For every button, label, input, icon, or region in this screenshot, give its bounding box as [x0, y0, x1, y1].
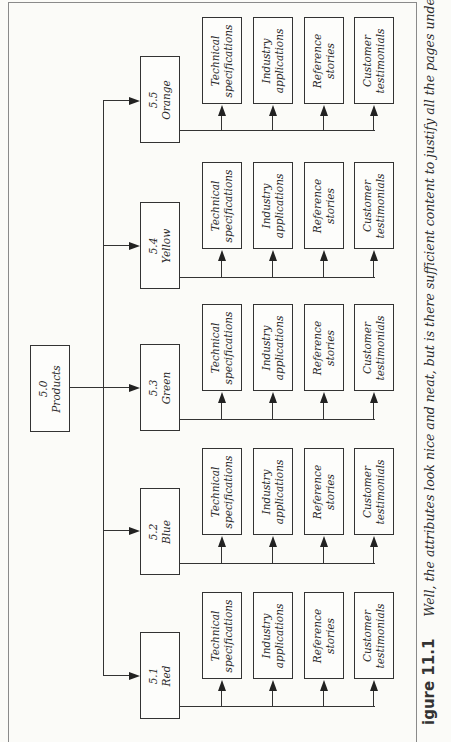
product-label: Yellow: [160, 228, 173, 262]
arrow-right-icon: [129, 97, 140, 105]
product-box-yellow: 5.4Yellow: [140, 202, 180, 289]
child-page-line2: testimonials: [374, 459, 387, 524]
arrow-up-icon: [320, 680, 328, 691]
arrow-up-icon: [370, 392, 378, 403]
child-connector-line: [180, 419, 375, 420]
child-page-text: Customertestimonials: [361, 173, 387, 238]
child-page-line1: Customer: [361, 603, 374, 668]
arrow-up-icon: [269, 680, 277, 691]
child-page-text: Referencestories: [311, 33, 337, 87]
child-page-line1: Technical: [209, 599, 222, 672]
product-box-text: 5.3Green: [147, 371, 173, 404]
root-number: 5.0: [37, 365, 50, 412]
child-page-text: Industryapplications: [260, 603, 286, 668]
child-page-line2: stories: [324, 608, 337, 662]
child-page-line2: specifications: [222, 599, 235, 672]
product-box-text: 5.4Yellow: [147, 228, 173, 262]
child-page-line1: Customer: [361, 28, 374, 93]
arrow-up-icon: [269, 392, 277, 403]
child-page-box: Technicalspecifications: [202, 304, 242, 391]
figure-caption: igure 11.1 Well, the attributes look nic…: [420, 0, 438, 725]
child-page-box: Customertestimonials: [354, 17, 394, 104]
child-page-text: Referencestories: [311, 608, 337, 662]
product-box-green: 5.3Green: [140, 344, 180, 431]
child-page-line1: Technical: [209, 24, 222, 97]
product-number: 5.2: [147, 519, 160, 543]
arrow-up-icon: [370, 105, 378, 116]
trunk-branch-line: [103, 387, 131, 388]
product-label: Orange: [160, 80, 173, 120]
child-page-box: Technicalspecifications: [202, 17, 242, 104]
child-page-line2: specifications: [222, 455, 235, 528]
product-box-orange: 5.5Orange: [140, 56, 180, 143]
child-page-line1: Technical: [209, 169, 222, 242]
arrow-up-icon: [218, 680, 226, 691]
child-page-text: Customertestimonials: [361, 459, 387, 524]
child-page-line1: Industry: [260, 315, 273, 380]
arrow-up-icon: [320, 105, 328, 116]
child-page-line2: applications: [273, 315, 286, 380]
child-page-line2: specifications: [222, 311, 235, 384]
product-box-text: 5.5Orange: [147, 80, 173, 120]
child-page-line2: applications: [273, 28, 286, 93]
child-page-line2: stories: [324, 464, 337, 518]
child-page-line2: stories: [324, 320, 337, 374]
child-page-box: Technicalspecifications: [202, 162, 242, 249]
arrow-up-icon: [370, 536, 378, 547]
child-page-box: Industryapplications: [253, 304, 293, 391]
root-label: Products: [50, 365, 63, 412]
arrow-right-icon: [129, 672, 140, 680]
product-box-text: 5.2Blue: [147, 519, 173, 543]
child-page-line2: applications: [273, 173, 286, 238]
child-page-text: Technicalspecifications: [209, 311, 235, 384]
child-page-text: Industryapplications: [260, 173, 286, 238]
child-page-line2: specifications: [222, 24, 235, 97]
child-page-line2: testimonials: [374, 173, 387, 238]
child-page-line2: stories: [324, 33, 337, 87]
arrow-right-icon: [129, 527, 140, 535]
child-page-line2: applications: [273, 603, 286, 668]
child-page-line1: Industry: [260, 603, 273, 668]
child-page-box: Industryapplications: [253, 162, 293, 249]
child-page-box: Customertestimonials: [354, 448, 394, 535]
child-connector-line: [180, 706, 375, 707]
child-page-line1: Customer: [361, 173, 374, 238]
child-page-box: Industryapplications: [253, 17, 293, 104]
child-page-line1: Industry: [260, 28, 273, 93]
arrow-up-icon: [320, 250, 328, 261]
product-label: Green: [160, 371, 173, 404]
child-page-line2: testimonials: [374, 28, 387, 93]
arrow-up-icon: [218, 105, 226, 116]
child-page-line1: Technical: [209, 455, 222, 528]
product-box-blue: 5.2Blue: [140, 488, 180, 575]
child-page-box: Customertestimonials: [354, 592, 394, 679]
product-box-red: 5.1Red: [140, 632, 180, 719]
arrow-up-icon: [370, 680, 378, 691]
child-page-line1: Industry: [260, 173, 273, 238]
child-page-box: Referencestories: [304, 17, 344, 104]
arrow-up-icon: [269, 105, 277, 116]
child-page-box: Referencestories: [304, 592, 344, 679]
trunk-branch-line: [103, 100, 131, 101]
child-page-text: Technicalspecifications: [209, 24, 235, 97]
root-box-text: 5.0 Products: [37, 365, 63, 412]
arrow-up-icon: [218, 536, 226, 547]
arrow-right-icon: [129, 384, 140, 392]
child-page-text: Referencestories: [311, 464, 337, 518]
product-number: 5.3: [147, 371, 160, 404]
child-page-line1: Reference: [311, 320, 324, 374]
child-page-text: Technicalspecifications: [209, 599, 235, 672]
child-page-text: Industryapplications: [260, 459, 286, 524]
trunk-branch-line: [103, 245, 131, 246]
child-page-line1: Technical: [209, 311, 222, 384]
child-page-box: Technicalspecifications: [202, 448, 242, 535]
child-page-line1: Reference: [311, 178, 324, 232]
child-page-text: Industryapplications: [260, 28, 286, 93]
arrow-up-icon: [370, 250, 378, 261]
child-page-text: Customertestimonials: [361, 28, 387, 93]
child-page-line2: specifications: [222, 169, 235, 242]
child-page-box: Industryapplications: [253, 592, 293, 679]
product-label: Blue: [160, 519, 173, 543]
product-number: 5.1: [147, 665, 160, 686]
child-page-text: Customertestimonials: [361, 603, 387, 668]
